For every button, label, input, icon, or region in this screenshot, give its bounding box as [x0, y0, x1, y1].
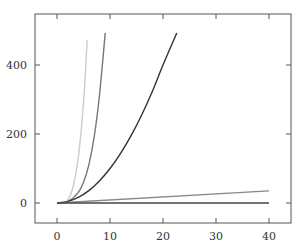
curves — [57, 33, 269, 203]
series-line-linear — [57, 191, 269, 203]
y-tick-label: 200 — [6, 128, 27, 141]
series-curve-steep — [57, 33, 105, 203]
x-tick-label: 10 — [103, 230, 117, 243]
x-tick-label: 30 — [209, 230, 223, 243]
series-curve-steepest — [57, 40, 87, 203]
x-tick-label: 0 — [54, 230, 61, 243]
y-tick-label: 400 — [6, 59, 27, 72]
x-tick-label: 40 — [262, 230, 276, 243]
y-tick-label: 0 — [20, 197, 27, 210]
x-tick-label: 20 — [156, 230, 170, 243]
tick-labels: 0102030400200400 — [6, 59, 276, 243]
chart: 0102030400200400 — [0, 0, 306, 249]
